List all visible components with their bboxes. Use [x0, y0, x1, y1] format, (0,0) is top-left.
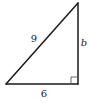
right-triangle-diagram: 9 b 6: [0, 0, 89, 103]
right-angle-marker-icon: [71, 77, 78, 84]
hypotenuse-side: [6, 3, 78, 84]
vertical-leg-label: b: [81, 37, 87, 48]
horizontal-leg-label: 6: [41, 88, 47, 99]
hypotenuse-label: 9: [31, 33, 37, 44]
